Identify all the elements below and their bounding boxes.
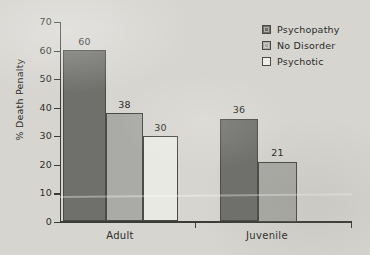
legend-label-psychotic: Psychotic: [277, 56, 324, 67]
y-tick-10: [54, 193, 60, 194]
legend-label-no-disorder: No Disorder: [277, 40, 335, 51]
bar-juvenile-psychopathy: [220, 119, 258, 222]
bar-value-juvenile-no-disorder: 21: [258, 147, 297, 158]
y-tick-label-70: 70: [22, 17, 52, 27]
legend-item-psychopathy: Psychopathy: [262, 22, 340, 37]
y-tick-40: [54, 108, 60, 109]
legend-swatch-psychotic-icon: [262, 57, 271, 66]
bar-value-juvenile-psychopathy: 36: [220, 104, 258, 115]
y-tick-label-0: 0: [22, 217, 52, 227]
x-tick-group-divider: [195, 222, 196, 228]
y-tick-30: [54, 136, 60, 137]
y-tick-50: [54, 79, 60, 80]
x-category-label-juvenile: Juvenile: [234, 230, 300, 241]
legend-item-no-disorder: No Disorder: [262, 38, 340, 53]
y-tick-label-50: 50: [22, 74, 52, 84]
y-tick-label-10: 10: [22, 188, 52, 198]
legend-swatch-no-disorder-icon: [262, 41, 271, 50]
bar-chart: % Death Penalty 70 60 50 40 30 20 10 0 A…: [0, 0, 370, 255]
y-tick-label-30: 30: [22, 131, 52, 141]
legend: Psychopathy No Disorder Psychotic: [262, 22, 340, 70]
legend-label-psychopathy: Psychopathy: [277, 24, 340, 35]
y-tick-label-20: 20: [22, 160, 52, 170]
legend-swatch-psychopathy-icon: [262, 25, 271, 34]
bar-juvenile-no-disorder: [258, 162, 297, 222]
x-category-label-adult: Adult: [90, 230, 150, 241]
y-tick-70: [54, 22, 60, 23]
bar-adult-psychotic: [143, 136, 178, 222]
x-tick-axis-end: [351, 222, 352, 228]
y-axis-line: [60, 22, 61, 222]
bar-value-adult-psychopathy: 60: [63, 36, 106, 47]
y-tick-60: [54, 51, 60, 52]
y-tick-label-60: 60: [22, 46, 52, 56]
bar-adult-psychopathy: [63, 50, 106, 221]
legend-item-psychotic: Psychotic: [262, 54, 340, 69]
y-tick-20: [54, 165, 60, 166]
bar-value-adult-psychotic: 30: [143, 122, 178, 133]
y-tick-label-40: 40: [22, 103, 52, 113]
bar-adult-no-disorder: [106, 113, 143, 222]
bar-value-adult-no-disorder: 38: [106, 99, 143, 110]
